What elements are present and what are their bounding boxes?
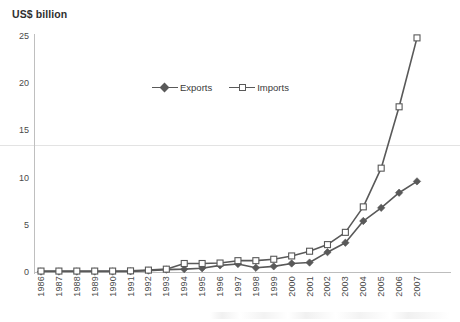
data-point-imports-1993[interactable]: [163, 266, 169, 272]
chart-plot-area: [0, 0, 460, 322]
data-point-imports-1996[interactable]: [217, 260, 223, 266]
data-point-imports-1988[interactable]: [74, 268, 80, 274]
data-point-imports-1986[interactable]: [38, 268, 44, 274]
exports-marker-icon: [152, 83, 178, 93]
data-point-imports-2002[interactable]: [324, 242, 330, 248]
series-line-imports: [41, 38, 417, 271]
legend-item-exports[interactable]: Exports: [152, 82, 212, 93]
chart-legend: Exports Imports: [152, 82, 289, 93]
data-point-exports-2001[interactable]: [306, 259, 313, 266]
data-point-exports-1999[interactable]: [270, 263, 277, 270]
data-point-imports-2007[interactable]: [414, 35, 420, 41]
data-point-imports-1992[interactable]: [145, 267, 151, 273]
data-point-imports-1991[interactable]: [128, 268, 134, 274]
legend-label-imports: Imports: [257, 82, 289, 93]
data-point-imports-1998[interactable]: [253, 258, 259, 264]
data-point-imports-2001[interactable]: [307, 248, 313, 254]
data-point-imports-2005[interactable]: [378, 165, 384, 171]
data-point-imports-1994[interactable]: [181, 261, 187, 267]
data-point-imports-2006[interactable]: [396, 104, 402, 110]
data-point-imports-1999[interactable]: [271, 256, 277, 262]
data-point-imports-1990[interactable]: [110, 268, 116, 274]
data-point-imports-1987[interactable]: [56, 268, 62, 274]
imports-marker-icon: [229, 83, 255, 93]
series-line-exports: [41, 181, 417, 271]
data-point-imports-1989[interactable]: [92, 268, 98, 274]
data-point-imports-1997[interactable]: [235, 258, 241, 264]
data-point-exports-2000[interactable]: [288, 260, 295, 267]
data-point-imports-1995[interactable]: [199, 261, 205, 267]
chart-container: US$ billion 0510152025 19861987198819891…: [0, 0, 460, 322]
scan-artifact: [150, 312, 450, 319]
data-point-imports-2004[interactable]: [360, 204, 366, 210]
legend-item-imports[interactable]: Imports: [229, 82, 289, 93]
data-point-imports-2000[interactable]: [289, 253, 295, 259]
data-point-exports-1998[interactable]: [252, 264, 259, 271]
legend-label-exports: Exports: [180, 82, 212, 93]
data-point-exports-2002[interactable]: [324, 249, 331, 256]
data-point-imports-2003[interactable]: [342, 229, 348, 235]
